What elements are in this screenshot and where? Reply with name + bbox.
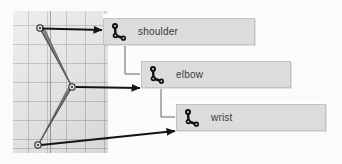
callout-label-wrist: wrist [211, 112, 233, 123]
callout-box-shoulder[interactable]: shoulder [103, 18, 255, 45]
joint-bone-icon [181, 107, 203, 129]
connector-shoulder-to-elbow [125, 46, 140, 74]
screenshot-root: shoulder elbow wrist [0, 0, 342, 164]
joint-bone-icon [146, 64, 168, 86]
callout-label-shoulder: shoulder [138, 26, 178, 37]
joint-bone-icon [108, 21, 130, 43]
callout-box-elbow[interactable]: elbow [141, 61, 291, 88]
callout-label-elbow: elbow [176, 69, 203, 80]
callout-box-wrist[interactable]: wrist [176, 104, 326, 131]
